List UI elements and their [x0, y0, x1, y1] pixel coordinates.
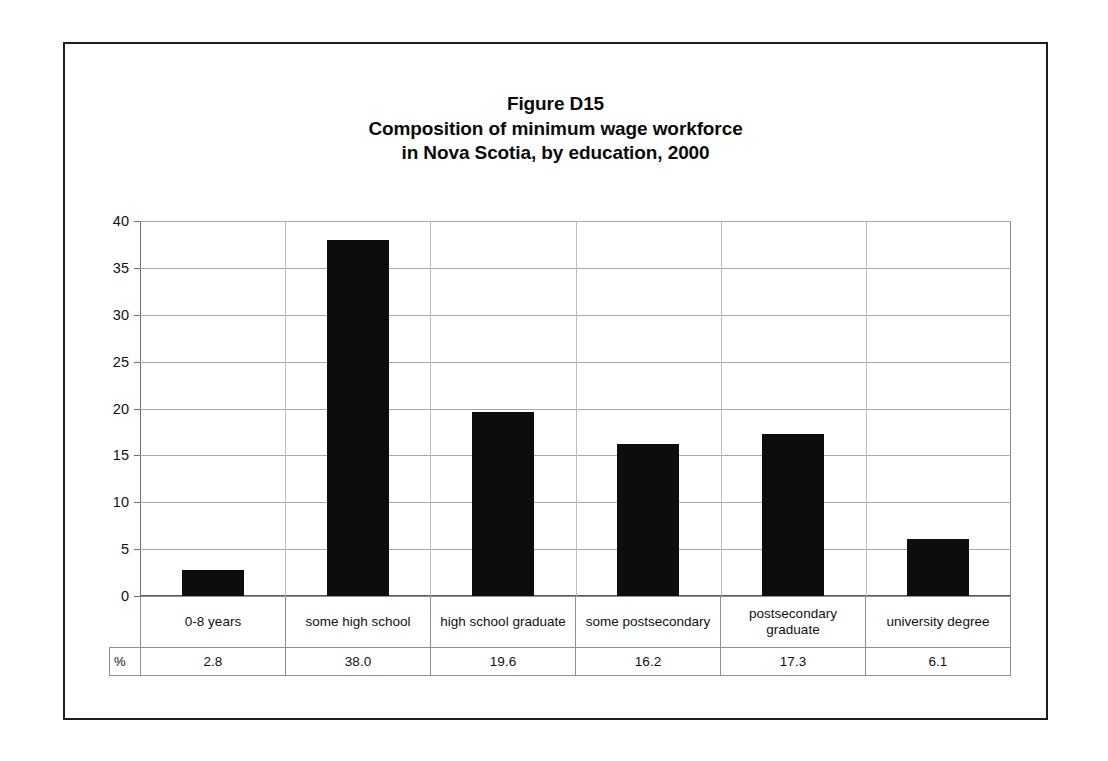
y-tick-25: [134, 362, 140, 363]
y-tick-label-10: 10: [113, 494, 129, 510]
category-separator-4: [721, 221, 722, 596]
table-category-cell-3: some postsecondary: [576, 597, 721, 648]
figure-title: Figure D15 Composition of minimum wage w…: [65, 92, 1046, 166]
y-tick-40: [134, 221, 140, 222]
table-category-cell-0: 0-8 years: [141, 597, 286, 648]
y-tick-15: [134, 455, 140, 456]
table-corner-blank: [110, 597, 141, 648]
category-separator-1: [285, 221, 286, 596]
y-tick-35: [134, 268, 140, 269]
y-tick-5: [134, 549, 140, 550]
y-tick-30: [134, 315, 140, 316]
table-row-categories: 0-8 yearssome high schoolhigh school gra…: [110, 597, 1011, 648]
bar-some-postsecondary: [617, 444, 679, 596]
y-tick-label-40: 40: [113, 213, 129, 229]
y-tick-label-5: 5: [121, 541, 129, 557]
y-tick-label-25: 25: [113, 354, 129, 370]
table-value-cell-0: 2.8: [141, 648, 286, 676]
table-category-cell-2: high school graduate: [431, 597, 576, 648]
category-separator-2: [430, 221, 431, 596]
table-value-cell-2: 19.6: [431, 648, 576, 676]
y-tick-label-20: 20: [113, 401, 129, 417]
y-tick-label-15: 15: [113, 447, 129, 463]
category-separator-3: [576, 221, 577, 596]
title-line-1: Figure D15: [65, 92, 1046, 117]
table-value-cell-3: 16.2: [576, 648, 721, 676]
data-table: 0-8 yearssome high schoolhigh school gra…: [109, 596, 1011, 676]
y-tick-label-30: 30: [113, 307, 129, 323]
table-stub-percent: %: [110, 648, 141, 676]
title-line-2: Composition of minimum wage workforce: [65, 117, 1046, 142]
bar-high-school-graduate: [472, 412, 534, 596]
y-tick-label-35: 35: [113, 260, 129, 276]
bar-postsecondary-graduate: [762, 434, 824, 596]
table-row-values: % 2.838.019.616.217.36.1: [110, 648, 1011, 676]
y-tick-10: [134, 502, 140, 503]
figure-frame: Figure D15 Composition of minimum wage w…: [63, 42, 1048, 720]
table-category-cell-1: some high school: [286, 597, 431, 648]
bar-some-high-school: [327, 240, 389, 596]
y-tick-20: [134, 409, 140, 410]
bar-university-degree: [907, 539, 969, 596]
table-value-cell-4: 17.3: [721, 648, 866, 676]
table-category-cell-4: postsecondary graduate: [721, 597, 866, 648]
bar-0-8-years: [182, 570, 244, 596]
table-value-cell-1: 38.0: [286, 648, 431, 676]
title-line-3: in Nova Scotia, by education, 2000: [65, 141, 1046, 166]
chart-plot-area: 0510152025303540: [140, 221, 1011, 596]
table-value-cell-5: 6.1: [866, 648, 1011, 676]
category-separator-5: [866, 221, 867, 596]
table-category-cell-5: university degree: [866, 597, 1011, 648]
